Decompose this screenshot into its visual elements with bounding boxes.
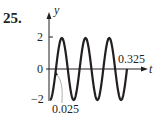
t-axis-label: t <box>149 62 153 76</box>
annotation-0-325: 0.325 <box>118 52 145 66</box>
annotation-0-025: 0.025 <box>52 102 79 116</box>
t-axis-arrow-icon <box>141 67 148 72</box>
tick-label-neg2: −2 <box>31 92 44 106</box>
y-axis-label: y <box>53 3 60 17</box>
tick-label-2: 2 <box>37 30 43 44</box>
annotation-leader <box>56 74 62 103</box>
sinusoid-plot: y t 2 0 −2 0.025 0.325 <box>0 0 155 125</box>
tick-label-0: 0 <box>37 62 43 76</box>
y-axis-arrow-icon <box>47 12 52 19</box>
